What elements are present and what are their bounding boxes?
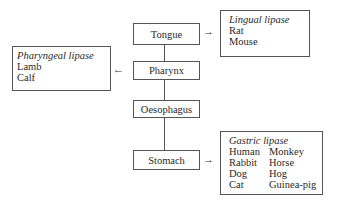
pharyngeal-lipase-box: Pharyngeal lipase Lamb Calf <box>12 46 111 91</box>
lingual-lipase-box: Lingual lipase Rat Mouse <box>220 10 310 57</box>
connector-tongue-pharynx <box>164 45 165 61</box>
lipase-title: Lingual lipase <box>229 14 309 25</box>
lipase-title: Pharyngeal lipase <box>17 50 110 61</box>
lipase-title: Gastric lipase <box>229 135 322 146</box>
species: Mouse <box>229 36 309 47</box>
species: Human <box>229 146 269 157</box>
arrow-right-icon: → <box>203 26 214 37</box>
species: Horse <box>269 157 322 168</box>
organ-pharynx: Pharynx <box>133 61 200 80</box>
organ-label: Pharynx <box>149 65 184 76</box>
species: Cat <box>229 179 269 190</box>
species: Guinea-pig <box>269 179 322 190</box>
organ-label: Oesophagus <box>141 104 192 115</box>
connector-oesophagus-stomach <box>164 118 165 150</box>
organ-label: Tongue <box>151 29 182 40</box>
arrow-right-icon: → <box>203 154 214 165</box>
organ-label: Stomach <box>148 155 185 166</box>
species: Rabbit <box>229 157 269 168</box>
species: Lamb <box>17 61 110 72</box>
gastric-lipase-box: Gastric lipase Human Monkey Rabbit Horse… <box>220 131 323 195</box>
connector-pharynx-oesophagus <box>164 79 165 101</box>
species: Hog <box>269 168 322 179</box>
organ-oesophagus: Oesophagus <box>133 100 200 118</box>
species: Calf <box>17 72 110 83</box>
species-grid: Human Monkey Rabbit Horse Dog Hog Cat Gu… <box>229 146 322 190</box>
organ-tongue: Tongue <box>133 23 200 45</box>
organ-stomach: Stomach <box>133 150 200 170</box>
species: Rat <box>229 25 309 36</box>
species: Monkey <box>269 146 322 157</box>
species: Dog <box>229 168 269 179</box>
arrow-left-icon: ← <box>113 64 124 75</box>
